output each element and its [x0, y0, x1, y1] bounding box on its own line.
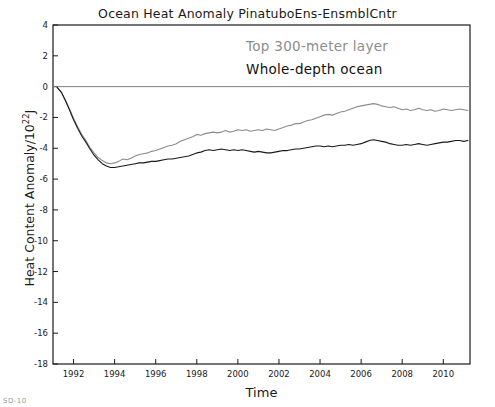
y-tick-label: -14 — [18, 298, 48, 307]
y-axis-label: Heat Content Anomaly/1022J — [21, 98, 37, 298]
y-axis-label-unit: J — [22, 110, 37, 114]
x-axis-label: Time — [53, 385, 470, 400]
y-tick-label: 4 — [18, 21, 48, 30]
chart-figure: Ocean Heat Anomaly PinatuboEns-EnsmblCnt… — [0, 0, 495, 407]
y-tick-label: -18 — [18, 360, 48, 369]
x-tick-label: 2006 — [341, 370, 381, 379]
series-line-whole-depth-ocean — [57, 87, 468, 167]
annotation-top-300-meter-layer: Top 300-meter layer — [246, 38, 388, 54]
data-series-group — [57, 87, 468, 167]
x-tick-label: 1992 — [54, 370, 94, 379]
y-tick-label: 0 — [18, 83, 48, 92]
x-tick-label: 1996 — [136, 370, 176, 379]
x-tick-label: 2010 — [423, 370, 463, 379]
y-tick-label: -16 — [18, 329, 48, 338]
figure-corner-mark: SD-10 — [3, 397, 27, 405]
x-tick-label: 2002 — [259, 370, 299, 379]
x-tick-label: 2008 — [382, 370, 422, 379]
y-axis-ticks — [53, 25, 58, 364]
y-axis-label-text: Heat Content Anomaly/10 — [22, 124, 37, 286]
y-tick-label: 2 — [18, 52, 48, 61]
x-tick-label: 1998 — [177, 370, 217, 379]
y-axis-label-exponent: 22 — [21, 113, 31, 124]
x-axis-ticks — [74, 359, 444, 364]
chart-title: Ocean Heat Anomaly PinatuboEns-EnsmblCnt… — [0, 6, 495, 21]
annotation-whole-depth-ocean: Whole-depth ocean — [246, 61, 383, 77]
x-tick-label: 1994 — [95, 370, 135, 379]
x-tick-label: 2004 — [300, 370, 340, 379]
x-tick-label: 2000 — [218, 370, 258, 379]
